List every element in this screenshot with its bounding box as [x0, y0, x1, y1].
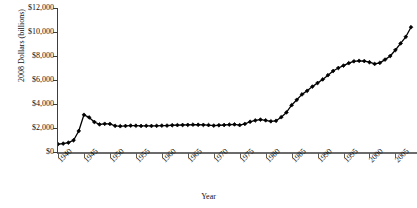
data-point-marker: [129, 124, 133, 128]
y-tick-label: $6,000: [16, 76, 54, 84]
data-point-marker: [144, 124, 148, 128]
data-point-marker: [61, 142, 65, 146]
y-tick-label: $12,000: [16, 4, 54, 12]
data-point-marker: [124, 124, 128, 128]
data-point-marker: [139, 124, 143, 128]
data-point-marker: [227, 123, 231, 127]
data-point-marker: [201, 123, 205, 127]
data-point-marker: [165, 124, 169, 128]
line-chart: 2008 Dollars (billions) $0$2,000$4,000$6…: [0, 0, 417, 208]
data-point-marker: [264, 118, 268, 122]
data-point-marker: [269, 119, 273, 123]
data-point-marker: [352, 59, 356, 63]
data-point-marker: [176, 123, 180, 127]
y-tick-mark: [53, 32, 58, 33]
data-point-marker: [113, 124, 117, 128]
data-point-marker: [243, 122, 247, 126]
y-tick-label: $10,000: [16, 28, 54, 36]
data-point-marker: [150, 124, 154, 128]
y-tick-mark: [53, 80, 58, 81]
data-point-marker: [207, 123, 211, 127]
data-point-marker: [118, 124, 122, 128]
data-series-line: [58, 8, 417, 152]
data-point-marker: [103, 122, 107, 126]
data-point-marker: [238, 123, 242, 127]
data-point-marker: [108, 122, 112, 126]
data-point-marker: [253, 119, 257, 123]
data-point-marker: [357, 59, 361, 63]
data-point-marker: [196, 123, 200, 127]
data-point-marker: [160, 124, 164, 128]
data-point-marker: [373, 62, 377, 66]
y-tick-mark: [53, 8, 58, 9]
y-tick-label: $8,000: [16, 52, 54, 60]
data-point-marker: [186, 123, 190, 127]
y-tick-mark: [53, 128, 58, 129]
data-point-marker: [233, 123, 237, 127]
y-tick-label: $4,000: [16, 100, 54, 108]
plot-area: [58, 8, 417, 152]
data-point-marker: [155, 124, 159, 128]
y-tick-label: $0: [16, 148, 54, 156]
y-tick-label: $2,000: [16, 124, 54, 132]
data-point-marker: [181, 123, 185, 127]
data-point-marker: [58, 142, 60, 146]
y-tick-mark: [53, 104, 58, 105]
data-point-marker: [368, 60, 372, 64]
data-point-marker: [134, 124, 138, 128]
y-axis-tick-labels: $0$2,000$4,000$6,000$8,000$10,000$12,000: [14, 0, 54, 208]
data-point-marker: [191, 123, 195, 127]
data-point-marker: [259, 118, 263, 122]
data-point-marker: [347, 61, 351, 65]
data-point-marker: [222, 123, 226, 127]
data-point-marker: [217, 123, 221, 127]
y-tick-mark: [53, 152, 58, 153]
data-point-marker: [362, 59, 366, 63]
data-point-marker: [170, 123, 174, 127]
data-point-marker: [212, 124, 216, 128]
x-axis-title: Year: [0, 192, 417, 201]
y-tick-mark: [53, 56, 58, 57]
data-point-marker: [248, 120, 252, 124]
